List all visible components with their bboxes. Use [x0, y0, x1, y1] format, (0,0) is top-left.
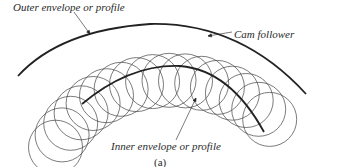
follower-circle — [44, 96, 98, 150]
follower-circle — [243, 92, 297, 146]
follower-circle — [219, 74, 273, 128]
follower-circle — [190, 60, 244, 114]
figure-caption: (a) — [154, 157, 166, 167]
inner-envelope-label: Inner envelope or profile — [111, 141, 221, 152]
inner-arrowhead-icon — [193, 98, 196, 102]
follower-arrowhead-icon — [208, 34, 212, 37]
follower-circle — [142, 53, 196, 107]
inner-leader-line — [176, 98, 196, 140]
cam-follower-label: Cam follower — [234, 29, 294, 40]
outer-arrowhead-icon — [87, 30, 90, 34]
outer-leader-line — [74, 12, 90, 34]
outer-envelope-label: Outer envelope or profile — [13, 2, 125, 13]
follower-circle — [35, 108, 89, 162]
follower-circle — [54, 86, 108, 140]
follower-circle — [232, 82, 286, 136]
